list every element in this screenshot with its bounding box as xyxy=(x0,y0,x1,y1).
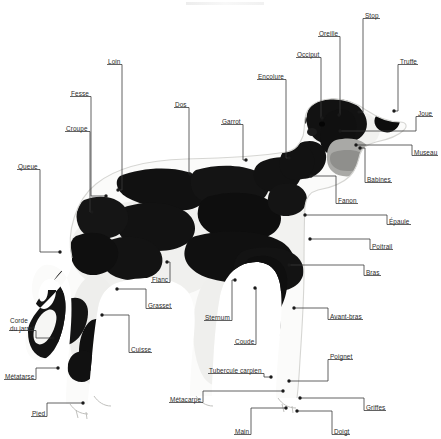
anchor-dot-metacarpe xyxy=(281,389,284,392)
label-dos: Dos xyxy=(175,101,187,109)
anchor-dot-babines xyxy=(358,146,361,149)
label-museau: Museau xyxy=(414,149,437,157)
label-flanc: Flanc xyxy=(152,276,168,284)
label-metacarpe: Métacarpe xyxy=(170,396,201,404)
anchor-dot-stop xyxy=(357,110,360,113)
label-fesse: Fesse xyxy=(71,90,89,98)
label-queue: Queue xyxy=(18,163,38,171)
leader-garrot xyxy=(221,125,248,162)
anchor-dot-queue xyxy=(58,250,61,253)
label-encolure: Encolure xyxy=(258,73,284,81)
anchor-dot-croupe xyxy=(90,210,93,213)
anchor-dot-avant-bras xyxy=(292,306,295,309)
label-babines: Babines xyxy=(367,176,391,184)
label-truffe: Truffe xyxy=(400,58,417,66)
label-coude: Coude xyxy=(235,338,254,346)
label-garrot: Garrot xyxy=(222,118,241,126)
dog-anatomy-figure: QueueCroupeFesseLoinDosGarrotEncolureOcc… xyxy=(0,0,441,439)
label-croupe: Croupe xyxy=(66,125,88,133)
label-epaule: Épaule xyxy=(389,218,410,226)
anchor-dot-occiput xyxy=(320,116,323,119)
anchor-dot-tubercule-carpien xyxy=(269,375,272,378)
leader-stop xyxy=(357,19,380,114)
anchor-dot-garrot xyxy=(244,158,247,161)
leader-truffe xyxy=(392,65,418,113)
leader-joue xyxy=(338,117,433,133)
label-occiput: Occiput xyxy=(297,51,319,59)
label-pied: Pied xyxy=(32,410,45,418)
label-joue: Joue xyxy=(418,110,432,118)
anchor-dot-corde-du-jarret xyxy=(51,336,54,339)
leader-dos xyxy=(174,108,192,176)
anchor-dot-joue xyxy=(338,129,341,132)
leader-occiput xyxy=(296,58,324,120)
label-poignet: Poignet xyxy=(330,353,352,361)
leader-loin xyxy=(107,65,122,192)
anchor-dot-cuisse xyxy=(100,313,103,316)
label-doigt: Doigt xyxy=(334,428,349,436)
anchor-dot-metatarse xyxy=(56,366,59,369)
label-corde-du-jarret: Corde du jarret xyxy=(10,317,34,332)
label-oreille: Oreille xyxy=(319,30,338,38)
label-tubercule-carpien: Tubercule carpien xyxy=(209,367,262,375)
leader-croupe xyxy=(65,132,94,214)
anchor-dot-fanon xyxy=(309,174,312,177)
label-cuisse: Cuisse xyxy=(131,346,151,354)
anchor-dot-sternum xyxy=(233,278,236,281)
leader-fesse xyxy=(70,97,108,198)
anchor-dot-main xyxy=(284,406,287,409)
label-poitrail: Poitrail xyxy=(372,243,392,251)
leader-poignet xyxy=(287,360,353,383)
label-metatarse: Métatarse xyxy=(5,373,34,381)
leader-oreille xyxy=(318,37,341,117)
label-grasset: Grasset xyxy=(148,302,171,310)
anchor-dot-epaule xyxy=(303,213,306,216)
label-fanon: Fanon xyxy=(338,197,357,205)
anchor-dot-encolure xyxy=(287,156,290,159)
anchor-dot-coude xyxy=(253,286,256,289)
anchor-dot-poitrail xyxy=(308,237,311,240)
leader-encolure xyxy=(257,80,291,160)
label-griffes: Griffes xyxy=(366,404,385,412)
anchor-dot-dos xyxy=(188,172,191,175)
anchor-dot-oreille xyxy=(337,113,340,116)
label-bras: Bras xyxy=(366,269,380,277)
anchor-dot-doigt xyxy=(295,409,298,412)
anchor-dot-griffes xyxy=(298,396,301,399)
leader-queue xyxy=(17,170,62,254)
label-stop: Stop xyxy=(365,12,379,20)
anchor-dot-flanc xyxy=(165,260,168,263)
anchor-dot-grasset xyxy=(115,287,118,290)
label-main: Main xyxy=(235,428,249,436)
label-loin: Loin xyxy=(108,58,120,66)
leader-coude xyxy=(234,286,257,344)
anchor-dot-truffe xyxy=(392,109,395,112)
anchor-dot-loin xyxy=(116,188,119,191)
anchor-dot-bras xyxy=(287,263,290,266)
anchor-dot-pied xyxy=(81,401,84,404)
anchor-dot-museau xyxy=(354,143,357,146)
label-sternum: Sternum xyxy=(205,314,230,322)
anchor-dot-fesse xyxy=(104,194,107,197)
anchor-dot-poignet xyxy=(287,379,290,382)
label-avant-bras: Avant-bras xyxy=(330,313,362,321)
